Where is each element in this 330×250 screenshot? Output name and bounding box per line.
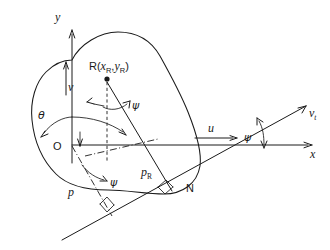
psi-lower-label: ψ [110, 176, 118, 189]
theta-angle-label: θ [38, 109, 45, 122]
psi-lower-arc [82, 165, 104, 180]
origin-label: O [53, 140, 62, 152]
right-angle-marker-p-2 [100, 197, 114, 205]
distance-pR-label-sub: R [147, 172, 152, 181]
point-R-marker [104, 76, 109, 81]
distance-pR-label-base: p [140, 165, 147, 179]
psi-right-label: ψ [244, 131, 252, 144]
velocity-vt-label-sub: t [314, 113, 317, 122]
x-axis-label: x [309, 147, 316, 161]
pR-perpendicular-line [107, 82, 172, 191]
velocity-u-label: u [208, 121, 214, 135]
tangent-line [62, 106, 306, 240]
figure-container: y x O v u vt R(xR,yR) θ ψ ψ [0, 0, 330, 250]
vector-diagram: y x O v u vt R(xR,yR) θ ψ ψ [0, 0, 330, 250]
pR-construction-line [85, 139, 158, 156]
point-R-label-close: ) [125, 60, 129, 72]
theta-angle-arc-right [72, 117, 123, 132]
distance-p-label: p [67, 185, 74, 199]
point-R-label: R(xR,yR) [89, 59, 129, 75]
distance-pR-label: pR [140, 165, 152, 181]
right-angle-marker-p [100, 204, 114, 212]
point-N-label: N [186, 182, 194, 194]
theta-angle-arc [44, 117, 72, 133]
y-axis-label: y [54, 10, 61, 24]
theta-arrowhead-icon [41, 131, 48, 137]
point-R-label-head: R( [89, 60, 101, 72]
psi-right-arrowhead-top-icon [257, 118, 263, 125]
psi-upper-arrowhead-left-icon [87, 98, 94, 104]
velocity-vt-label: vt [309, 106, 317, 122]
body-outline [32, 32, 201, 194]
psi-upper-tick [94, 104, 104, 106]
velocity-v-label: v [68, 80, 74, 94]
psi-upper-label: ψ [132, 99, 140, 112]
